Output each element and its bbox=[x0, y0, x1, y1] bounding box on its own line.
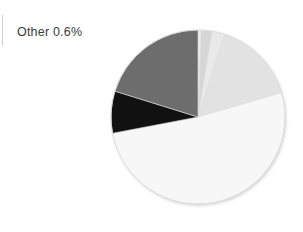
figure-canvas: Other 0.6% bbox=[0, 0, 303, 232]
pie-slice-callout-label: Other 0.6% bbox=[17, 24, 82, 40]
pie-chart-svg bbox=[110, 27, 286, 209]
pie-chart bbox=[110, 27, 286, 209]
pie-slice-group bbox=[111, 30, 285, 204]
callout-leader-line bbox=[2, 15, 3, 46]
